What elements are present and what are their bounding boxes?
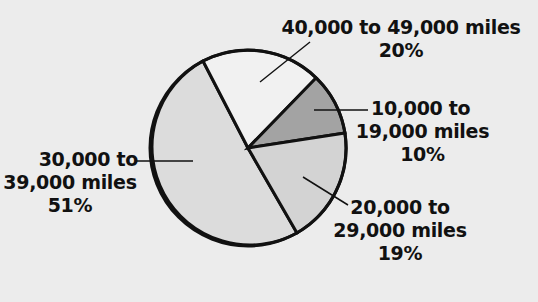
label-30k-39k: 30,000 to 39,000 miles 51% — [2, 148, 138, 217]
label-percent: 51% — [2, 194, 138, 217]
label-text: 40,000 to 49,000 miles — [276, 16, 526, 39]
label-text: 30,000 to — [2, 148, 138, 171]
label-text: 29,000 miles — [332, 219, 468, 242]
label-text: 20,000 to — [332, 196, 468, 219]
label-percent: 19% — [332, 242, 468, 265]
label-text: 19,000 miles — [355, 120, 490, 143]
label-40k-49k: 40,000 to 49,000 miles 20% — [276, 16, 526, 62]
label-percent: 10% — [355, 143, 490, 166]
label-text: 10,000 to — [355, 97, 490, 120]
label-text: 39,000 miles — [2, 171, 138, 194]
label-percent: 20% — [276, 39, 526, 62]
label-10k-19k: 10,000 to 19,000 miles 10% — [355, 97, 490, 166]
label-20k-29k: 20,000 to 29,000 miles 19% — [332, 196, 468, 265]
